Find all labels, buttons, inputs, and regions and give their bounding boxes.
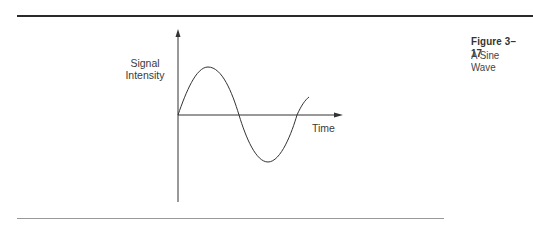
sine-wave-diagram — [0, 0, 533, 230]
y-axis-label-line1: Signal — [112, 57, 178, 69]
y-axis-arrow-icon — [176, 29, 181, 37]
x-axis-label: Time — [312, 122, 335, 134]
y-axis-label: Signal Intensity — [112, 57, 178, 81]
x-axis-arrow-icon — [334, 113, 343, 118]
figure-title: A Sine Wave — [471, 49, 524, 73]
bottom-rule — [17, 218, 444, 219]
y-axis-label-line2: Intensity — [112, 69, 178, 81]
